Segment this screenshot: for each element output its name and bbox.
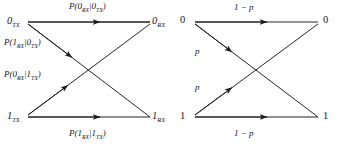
node-label-1-tx: 1TX [7, 111, 20, 124]
edge-label-p-0rx-given-0tx: P(0RX|0TX) [69, 2, 106, 14]
node-label-0-left: 0 [180, 15, 185, 26]
edge-lower-diagonal-arrow [195, 88, 232, 116]
edge-label-p-0rx-given-1tx: P(0RX|1TX) [4, 70, 41, 82]
bsc-diagram-crossover: 0 0 1 1 1 − p p p 1 − p [170, 0, 339, 150]
node-label-0-right: 0 [323, 15, 328, 26]
edge-label-p-upper: p [195, 47, 200, 56]
edge-label-one-minus-p-top: 1 − p [234, 3, 254, 12]
edge-upper-diagonal-arrow [195, 24, 232, 52]
node-label-0-rx: 0RX [152, 16, 165, 29]
node-label-1-left: 1 [180, 111, 185, 122]
edge-label-p-1rx-given-1tx: P(1RX|1TX) [69, 129, 106, 141]
right-edges-svg [170, 0, 339, 150]
node-label-1-rx: 1RX [152, 111, 165, 124]
edge-label-p-1rx-given-0tx: P(1RX|0TX) [4, 38, 41, 50]
edge-label-one-minus-p-bottom: 1 − p [234, 129, 254, 138]
edge-label-p-lower: p [195, 83, 200, 92]
edge-lower-diagonal-arrow [28, 85, 68, 115]
figure-canvas: 0TX 0RX 1TX 1RX P(0RX|0TX) P(1RX|0TX) P(… [0, 0, 339, 150]
node-label-0-tx: 0TX [7, 16, 20, 29]
bsc-diagram-conditional: 0TX 0RX 1TX 1RX P(0RX|0TX) P(1RX|0TX) P(… [0, 0, 169, 150]
node-label-1-right: 1 [323, 111, 328, 122]
